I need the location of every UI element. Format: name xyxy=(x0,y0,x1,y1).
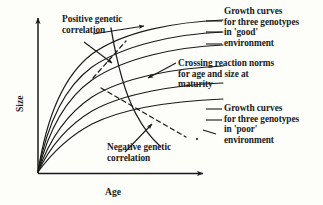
crossing-reaction-norm-line xyxy=(111,28,160,146)
dashed-norm-negative xyxy=(101,88,186,137)
annotation-poor-environment: Growth curves for three genotypes in 'po… xyxy=(224,103,299,145)
positive-correlation-arrow-2 xyxy=(84,42,112,63)
y-axis-label: Size xyxy=(14,95,25,112)
annotation-crossing-reaction-norms: Crossing reaction norms for age and size… xyxy=(178,58,274,90)
reaction-norm-solid xyxy=(111,28,160,146)
good-environment-leader-lines xyxy=(206,21,222,44)
negative-genetic-correlation-dashed-line xyxy=(101,88,186,137)
annotation-good-environment: Growth curves for three genotypes in 'go… xyxy=(224,6,299,48)
annotation-negative-genetic-correlation: Negative genetic correlation xyxy=(107,142,171,163)
leader-poor-3 xyxy=(203,130,216,134)
reaction-norm-endpoint-dot xyxy=(196,138,198,140)
x-axis-label: Age xyxy=(105,186,121,197)
poor-environment-leader-lines xyxy=(203,109,222,134)
annotation-positive-genetic-correlation: Positive genetic correlation xyxy=(62,14,122,35)
reaction-norm-growth-curve-figure: Positive genetic correlation Growth curv… xyxy=(0,0,323,205)
